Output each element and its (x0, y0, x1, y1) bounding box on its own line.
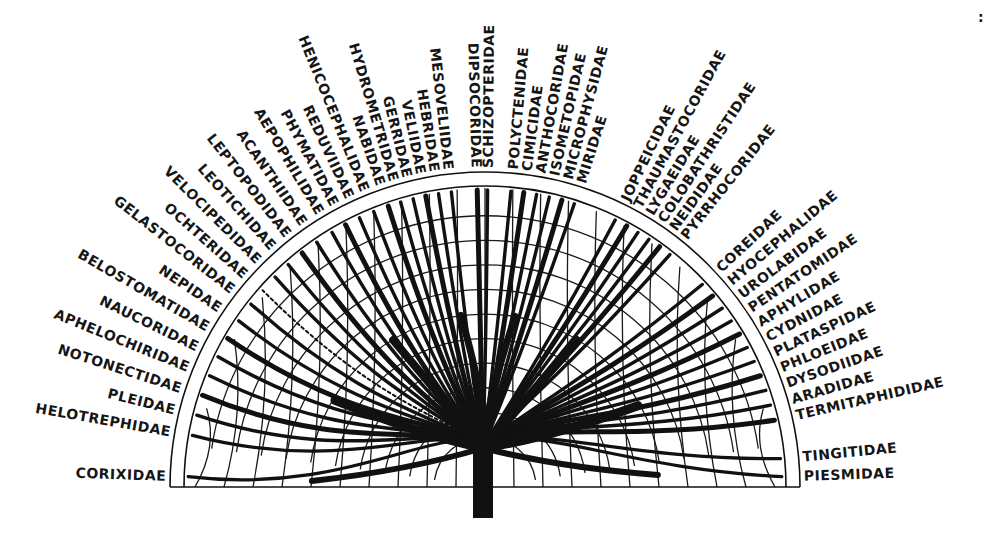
tree-trunk (473, 440, 493, 518)
family-label: SCHIZOPTERIDAE (480, 24, 497, 168)
fan-diagram: CORIXIDAEHELOTREPHIDAEPLEIDAENOTONECTIDA… (0, 0, 986, 534)
phylogeny-figure: CORIXIDAEHELOTREPHIDAEPLEIDAENOTONECTIDA… (0, 0, 986, 534)
family-label: PIESMIDAE (804, 465, 895, 484)
grid-meridian (340, 225, 348, 487)
corner-mark: : (978, 9, 984, 25)
family-label: CORIXIDAE (75, 465, 166, 484)
family-label: TINGITIDAE (802, 439, 898, 464)
